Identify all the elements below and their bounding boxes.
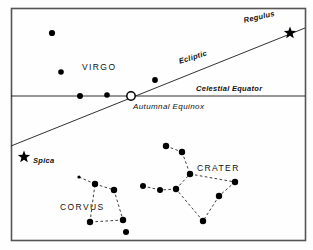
link-crater-1 <box>182 152 190 174</box>
star-crater-0 <box>163 143 169 149</box>
link-crater-2 <box>190 174 235 182</box>
star-crater-8 <box>140 183 146 189</box>
star-crater-2 <box>187 171 193 177</box>
autumnal-equinox-label: Autumnal Equinox <box>133 103 204 111</box>
star-crater-7 <box>157 187 163 193</box>
star-corvus-2 <box>87 219 93 225</box>
star-virgo-4 <box>152 77 158 83</box>
star-label-spica: Spica <box>33 157 55 165</box>
chart-border <box>12 9 306 241</box>
star-chart-figure: VIRGO CORVUS CRATER Regulus Ecliptic Cel… <box>0 0 313 250</box>
celestial-equator-label: Celestial Equator <box>196 85 262 93</box>
star-virgo-2 <box>77 93 83 99</box>
star-corvus-1 <box>111 187 117 193</box>
sky-canvas <box>0 0 313 250</box>
constellation-label-virgo: VIRGO <box>82 63 116 72</box>
special-markers <box>18 27 296 163</box>
star-corvus-5 <box>77 175 80 178</box>
marker-autumnal-equinox <box>127 92 135 100</box>
chart-frame <box>12 9 306 241</box>
link-corvus-2 <box>114 190 123 220</box>
constellation-label-crater: CRATER <box>197 164 240 173</box>
marker-regulus <box>284 27 296 39</box>
star-corvus-0 <box>92 181 98 187</box>
link-crater-4 <box>203 196 219 221</box>
constellation-label-corvus: CORVUS <box>60 203 105 212</box>
marker-spica <box>18 151 30 163</box>
star-crater-4 <box>216 193 222 199</box>
star-crater-1 <box>179 149 185 155</box>
star-virgo-1 <box>58 69 64 75</box>
link-crater-5 <box>176 189 203 221</box>
star-virgo-3 <box>104 92 110 98</box>
star-crater-5 <box>200 218 206 224</box>
star-crater-6 <box>173 186 179 192</box>
star-crater-3 <box>232 179 238 185</box>
star-corvus-4 <box>123 229 129 235</box>
star-corvus-3 <box>120 217 126 223</box>
star-virgo-0 <box>49 30 55 36</box>
link-corvus-3 <box>90 220 123 222</box>
